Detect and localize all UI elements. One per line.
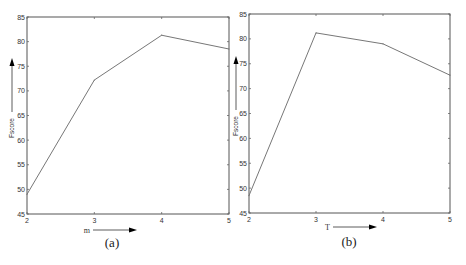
figure: 4550556065707580852345Fscorem(a)45505560… xyxy=(0,0,466,265)
data-point xyxy=(449,75,450,76)
plot-frame xyxy=(27,17,229,214)
y-tick-label: 75 xyxy=(17,63,25,70)
y-arrow-head-icon xyxy=(10,58,15,66)
chart-panel-b: 4550556065707580852345FscoreT(b) xyxy=(232,11,452,250)
data-point xyxy=(94,79,95,80)
data-point xyxy=(315,32,316,33)
y-axis-label: Fscore xyxy=(8,118,15,138)
y-tick-label: 60 xyxy=(239,135,247,142)
y-tick-label: 65 xyxy=(239,110,247,117)
chart-panel-a: 4550556065707580852345Fscorem(a) xyxy=(8,14,231,251)
y-tick-label: 65 xyxy=(17,112,25,119)
data-point xyxy=(228,48,229,49)
x-tick-label: 5 xyxy=(448,216,452,223)
data-point xyxy=(26,194,27,195)
y-arrow-head-icon xyxy=(234,56,239,64)
y-tick-label: 80 xyxy=(17,38,25,45)
y-tick-label: 70 xyxy=(239,85,247,92)
y-tick-label: 85 xyxy=(239,11,247,18)
chart-caption: (b) xyxy=(341,234,356,249)
y-tick-label: 45 xyxy=(17,211,25,218)
y-tick-label: 50 xyxy=(239,185,247,192)
y-tick-label: 55 xyxy=(17,161,25,168)
x-arrow-head-icon xyxy=(129,228,137,233)
x-tick-label: 4 xyxy=(381,216,385,223)
y-tick-label: 55 xyxy=(239,160,247,167)
y-tick-label: 75 xyxy=(239,60,247,67)
data-point xyxy=(161,35,162,36)
series-line-0 xyxy=(249,33,450,196)
y-tick-label: 80 xyxy=(239,35,247,42)
x-axis-label: T xyxy=(325,223,330,232)
plot-frame xyxy=(249,14,450,213)
y-tick-label: 70 xyxy=(17,87,25,94)
data-point xyxy=(248,195,249,196)
data-point xyxy=(382,43,383,44)
y-axis-label: Fscore xyxy=(232,116,239,136)
y-tick-label: 50 xyxy=(17,186,25,193)
x-arrow-head-icon xyxy=(369,225,377,230)
chart-caption: (a) xyxy=(105,235,119,250)
y-tick-label: 45 xyxy=(239,210,247,217)
series-line-0 xyxy=(27,35,229,194)
x-tick-label: 5 xyxy=(227,217,231,224)
x-tick-label: 4 xyxy=(160,217,164,224)
x-axis-label: m xyxy=(84,226,91,235)
x-tick-label: 2 xyxy=(247,216,251,223)
x-tick-label: 3 xyxy=(92,217,96,224)
y-tick-label: 60 xyxy=(17,137,25,144)
x-tick-label: 3 xyxy=(314,216,318,223)
x-tick-label: 2 xyxy=(25,217,29,224)
y-tick-label: 85 xyxy=(17,14,25,21)
